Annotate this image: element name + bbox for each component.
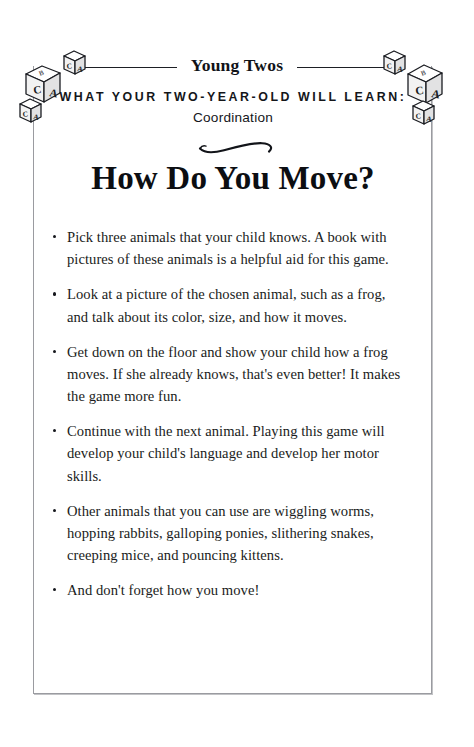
running-head-title: Young Twos	[191, 57, 283, 77]
activity-instruction-list: Pick three animals that your child knows…	[52, 226, 408, 601]
header-rule-right	[297, 67, 405, 68]
bullet-dot-icon	[53, 235, 56, 238]
swash-ornament	[194, 137, 280, 159]
bullet-dot-icon	[53, 350, 56, 353]
list-item: And don't forget how you move!	[52, 579, 408, 601]
list-item-text: And don't forget how you move!	[67, 582, 259, 598]
subtitle-block: WHAT YOUR TWO-YEAR-OLD WILL LEARN: Coord…	[40, 90, 426, 126]
bullet-dot-icon	[53, 509, 56, 512]
bullet-dot-icon	[53, 588, 56, 591]
bullet-dot-icon	[53, 429, 56, 432]
list-item-text: Pick three animals that your child knows…	[67, 229, 389, 267]
learning-objective-label: WHAT YOUR TWO-YEAR-OLD WILL LEARN:	[40, 90, 426, 106]
bullet-dot-icon	[53, 292, 56, 295]
running-head-band: Young Twos	[0, 52, 474, 82]
list-item-text: Look at a picture of the chosen animal, …	[67, 286, 385, 324]
list-item: Look at a picture of the chosen animal, …	[52, 283, 408, 327]
list-item: Continue with the next animal. Playing t…	[52, 420, 408, 487]
list-item-text: Get down on the floor and show your chil…	[67, 344, 400, 404]
list-item-text: Other animals that you can use are wiggl…	[67, 503, 374, 563]
list-item: Get down on the floor and show your chil…	[52, 341, 408, 408]
svg-text:A: A	[431, 87, 442, 100]
svg-text:C: C	[22, 109, 29, 119]
list-item: Pick three animals that your child knows…	[52, 226, 408, 270]
learning-objective-subject: Coordination	[40, 110, 426, 126]
list-item: Other animals that you can use are wiggl…	[52, 500, 408, 567]
header-rule-left	[69, 67, 177, 68]
list-item-text: Continue with the next animal. Playing t…	[67, 423, 385, 483]
page-title: How Do You Move?	[40, 160, 426, 196]
